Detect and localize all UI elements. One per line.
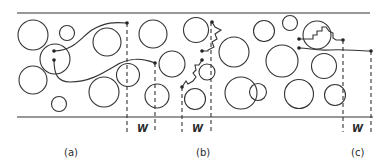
obstacle-circle [52, 97, 67, 112]
obstacle-circle [285, 80, 314, 109]
obstacle-circle [325, 85, 346, 106]
obstacle-circle [89, 77, 119, 107]
obstacle-circle [199, 64, 215, 80]
obstacle-circle [159, 51, 185, 77]
panel-label-c: (c) [351, 147, 364, 158]
obstacle-circle [283, 16, 298, 31]
obstacle-circle [219, 37, 249, 67]
obstacle-circle [266, 45, 298, 77]
obstacle-circle [185, 89, 206, 110]
obstacle-circle [145, 84, 169, 108]
obstacle-circle [93, 28, 121, 56]
path-c-upper [299, 27, 343, 40]
width-label-b: W [192, 123, 204, 134]
path-c-lower [299, 48, 371, 51]
path-a-upper [54, 23, 127, 51]
width-label-c: W [352, 123, 364, 134]
obstacle-circle [184, 18, 209, 43]
panel-label-a: (a) [64, 147, 78, 158]
panel-label-b: (b) [196, 147, 210, 158]
obstacle-circle [225, 77, 257, 109]
obstacle-channel-diagram: W W W (a) (b) (c) [0, 0, 389, 168]
labels: W W W (a) (b) (c) [64, 123, 364, 158]
obstacle-circle [117, 64, 140, 87]
obstacle-circle [250, 84, 267, 101]
obstacle-circle [312, 54, 337, 79]
obstacle-circle [19, 66, 47, 94]
obstacle-circle [254, 21, 275, 42]
obstacle-circle [18, 20, 48, 50]
obstacle-circle [60, 26, 75, 41]
width-label-a: W [137, 123, 149, 134]
obstacle-circle [139, 20, 167, 48]
